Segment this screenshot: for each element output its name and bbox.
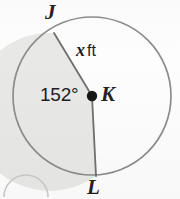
geometry-figure: J K L 152° xft: [0, 0, 180, 199]
point-label-j: J: [45, 2, 56, 23]
radius-variable: x: [76, 40, 85, 60]
radius-unit: ft: [87, 42, 96, 59]
point-label-l: L: [87, 177, 100, 198]
central-angle-label: 152°: [40, 85, 79, 104]
circle-diagram-canvas: [0, 0, 180, 199]
radius-measure-label: xft: [76, 41, 96, 59]
center-point-dot: [87, 91, 97, 101]
point-label-k: K: [101, 84, 115, 105]
